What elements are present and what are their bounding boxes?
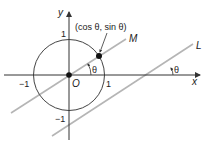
line-l — [52, 44, 193, 136]
angle-label-origin: θ — [92, 65, 97, 75]
angle-arc-l — [171, 68, 173, 75]
tick-x-pos: 1 — [106, 79, 111, 89]
origin-dot — [66, 72, 72, 78]
tick-y-pos: 1 — [61, 29, 66, 39]
tick-x-neg: −1 — [19, 79, 29, 89]
point-label-pointer — [100, 33, 107, 52]
line-m-label: M — [129, 33, 138, 44]
origin-label: O — [72, 78, 80, 89]
tick-y-neg: −1 — [55, 114, 65, 124]
unit-circle-diagram: y x O 1 −1 1 −1 (cos θ, sin θ) M L θ θ — [0, 0, 203, 142]
point-dot — [96, 53, 102, 59]
y-axis-label: y — [57, 7, 64, 18]
angle-arc-origin — [88, 64, 91, 75]
angle-label-l: θ — [174, 65, 179, 75]
point-label: (cos θ, sin θ) — [75, 22, 127, 32]
x-axis-label: x — [191, 76, 198, 87]
line-l-label: L — [196, 40, 202, 51]
